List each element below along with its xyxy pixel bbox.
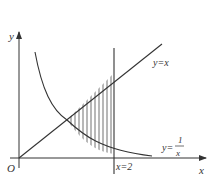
svg-text:x: x <box>175 148 180 158</box>
svg-text:1: 1 <box>178 135 183 145</box>
diagram: y x O y=x x=2 y= 1 x <box>0 0 214 191</box>
origin-label: O <box>7 162 15 174</box>
svg-text:y=: y= <box>161 142 173 153</box>
curve-y-equals-1-over-x <box>35 52 152 156</box>
label-y-equals-x: y=x <box>152 57 169 68</box>
line-y-equals-x <box>19 44 162 158</box>
shaded-region <box>71 60 111 170</box>
label-y-equals-1-over-x: y= 1 x <box>161 135 184 158</box>
label-x-equals-2: x=2 <box>115 161 132 172</box>
x-axis-label: x <box>198 164 204 176</box>
y-axis-label: y <box>8 30 14 42</box>
